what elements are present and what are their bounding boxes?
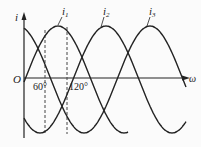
origin-label: O bbox=[13, 73, 21, 85]
i3-leader bbox=[147, 17, 150, 26]
i2-leader bbox=[101, 17, 104, 27]
i3-label: i3 bbox=[149, 5, 156, 19]
y-axis-arrow-icon bbox=[22, 12, 27, 20]
curve-i3 bbox=[24, 26, 186, 133]
i1-label: i1 bbox=[62, 5, 69, 19]
i1-leader bbox=[58, 17, 62, 25]
i2-label: i2 bbox=[103, 5, 110, 19]
y-axis-label: i bbox=[15, 11, 18, 23]
x-axis-label: ω bbox=[189, 73, 196, 84]
curve-i2 bbox=[24, 26, 186, 133]
waveform-diagram: i ω O i1 i2 i3 60° 120° bbox=[0, 0, 201, 147]
diagram-canvas: i ω O i1 i2 i3 60° 120° bbox=[0, 0, 201, 147]
marker-60-label: 60° bbox=[33, 81, 47, 92]
marker-120-label: 120° bbox=[69, 81, 88, 92]
curve-i1 bbox=[24, 26, 128, 133]
